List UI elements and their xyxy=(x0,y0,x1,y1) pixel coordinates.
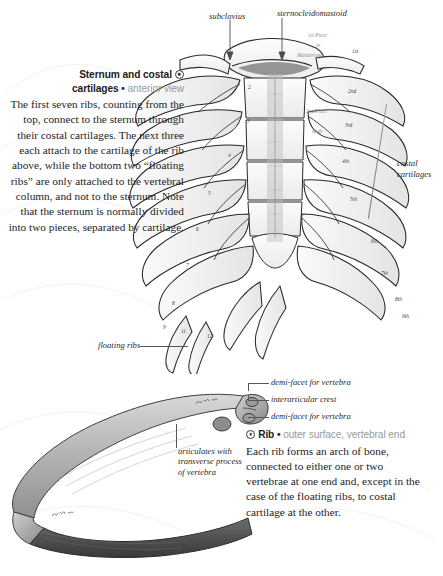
engraved-or: or xyxy=(316,42,321,48)
rib-number-2nd: 2nd xyxy=(348,88,356,94)
label-subclavius: subclavius xyxy=(209,11,245,21)
rib-body-text: Each rib forms an arch of bone, connecte… xyxy=(246,444,426,520)
rib-number-3: 3 xyxy=(247,118,250,124)
label-costal-cartilages-line1: costal xyxy=(397,158,418,168)
rib-number-6: 6 xyxy=(196,226,199,232)
rib-number-5th: 5th xyxy=(350,196,357,202)
label-demi-facet-upper: demi-facet for vertebra xyxy=(271,377,351,387)
sternum-body-text: The first seven ribs, counting from the … xyxy=(2,97,184,235)
sternum-heading-line2: cartilages xyxy=(72,83,119,94)
label-demi-facet-lower: demi-facet for vertebra xyxy=(271,411,351,421)
label-sternocleidomastoid: sternocleidomastoid xyxy=(277,8,347,18)
rib-number-4th: 4th xyxy=(342,158,349,164)
sternum-heading-line1: Sternum and costal xyxy=(79,69,172,80)
leader-crest-drop xyxy=(248,395,249,401)
rib-number-7th: 7th xyxy=(381,270,388,276)
rib-number-6th: 6th xyxy=(371,238,378,244)
leader-demi-facet-upper xyxy=(248,383,269,384)
label-costal-cartilages: costal cartilages xyxy=(397,158,431,180)
rib-number-9: 9 xyxy=(163,324,166,330)
rib-number-1st: 1st xyxy=(352,48,358,54)
label-interarticular-crest: interarticular crest xyxy=(271,394,336,404)
engraved-body: Body xyxy=(312,128,323,134)
leader-interarticular-crest xyxy=(248,400,269,401)
leader-articulates xyxy=(176,424,177,448)
label-articulates-with-transverse-process: articulates with transverse process of v… xyxy=(178,446,248,477)
sternum-heading: Sternum and costal cartilages • anterior… xyxy=(2,68,184,95)
sternum-text-block: Sternum and costal cartilages • anterior… xyxy=(2,68,184,235)
rib-heading-title: Rib xyxy=(258,429,274,440)
rib-number-4: 4 xyxy=(228,152,231,158)
leader-floating-ribs xyxy=(140,346,188,347)
leader-demi-facet-lower xyxy=(248,417,269,418)
floating-rib-number-11: 11 xyxy=(181,328,186,334)
engraved-manubrium: Manubrium xyxy=(297,52,322,58)
rib-number-9th: 9th xyxy=(402,313,409,319)
rib-bullet-icon xyxy=(246,430,255,439)
rib-heading-separator: • xyxy=(277,429,280,440)
engraved-first-piece: 1st Piece xyxy=(308,32,327,38)
rib-number-2: 2 xyxy=(248,84,251,90)
rib-number-5: 5 xyxy=(208,190,211,196)
engraved-second-piece: 2nd Piece xyxy=(306,108,327,114)
label-costal-cartilages-line2: cartilages xyxy=(397,169,431,179)
sternum-heading-separator: • xyxy=(121,83,124,94)
leader-demi-upper-drop xyxy=(248,383,249,391)
rib-number-7: 7 xyxy=(186,262,189,268)
sternum-subtitle: anterior view xyxy=(128,83,184,94)
sternum-bullet-icon xyxy=(175,70,184,79)
rib-text-block: Rib • outer surface, vertebral end Each … xyxy=(246,428,426,520)
rib-number-3rd: 3rd xyxy=(345,122,352,128)
label-floating-ribs: floating ribs xyxy=(98,340,140,350)
rib-subtitle: outer surface, vertebral end xyxy=(283,429,405,440)
anatomy-reference-page: 1st Piece or Manubrium 2nd Piece Body 2 … xyxy=(0,0,443,576)
rib-number-8: 8 xyxy=(172,300,175,306)
floating-rib-number-12: 12 xyxy=(207,333,212,339)
rib-heading: Rib • outer surface, vertebral end xyxy=(246,428,426,442)
rib-number-8th: 8th xyxy=(395,296,402,302)
